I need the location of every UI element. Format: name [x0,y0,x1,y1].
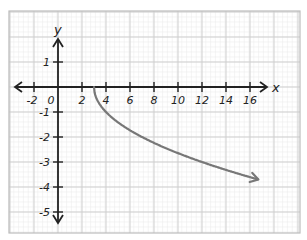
x-tick-label: 12 [195,94,209,107]
y-tick-label: 1 [43,56,50,69]
x-tick-label: 10 [171,94,185,107]
x-tick-label: 16 [243,94,257,107]
x-tick-label: 14 [219,94,233,107]
y-tick-label: -5 [39,206,50,219]
x-tick-label: 6 [127,94,134,107]
x-axis [15,82,267,92]
y-axis-label: y [53,22,62,37]
x-tick-label: 4 [103,94,110,107]
x-tick-labels: -20246810121416 [27,94,257,107]
x-tick-label: 2 [79,94,86,107]
x-tick-label: -2 [27,94,38,107]
y-tick-label: -4 [39,181,50,194]
y-tick-labels: 1-1-2-3-4-5 [39,56,50,219]
x-axis-label: x [271,80,280,95]
y-tick-label: -1 [39,106,50,119]
graph: -20246810121416 1-1-2-3-4-5 x y [0,0,307,240]
y-tick-label: -3 [39,156,50,169]
y-tick-label: -2 [39,131,50,144]
x-tick-label: 8 [151,94,158,107]
